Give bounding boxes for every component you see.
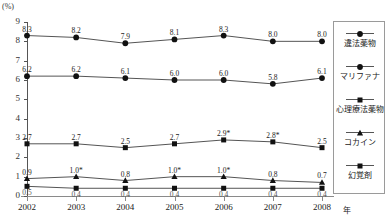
data-point-label: 0.8 (112, 171, 138, 179)
data-point-label: 6.1 (309, 68, 335, 76)
data-point-label: 6.1 (112, 68, 138, 76)
data-point-label: 2.5 (112, 138, 138, 146)
data-point-label: 2.7 (14, 134, 40, 142)
data-point-label: 2.5 (309, 138, 335, 146)
data-point-label: 0.4 (309, 191, 335, 199)
data-point-label: 1.0* (211, 167, 237, 175)
data-point (172, 37, 178, 43)
data-point-label: 0.4 (260, 191, 286, 199)
data-point-label: 8.1 (162, 29, 188, 37)
data-point (122, 75, 128, 81)
data-point (123, 145, 128, 150)
data-point (319, 75, 325, 81)
data-point (122, 40, 128, 46)
data-point (320, 145, 325, 150)
chart-container: (%) 012345678920022003200420052006200720… (0, 0, 387, 217)
data-point-label: 6.0 (211, 70, 237, 78)
data-point (221, 137, 226, 142)
data-point (270, 38, 276, 44)
legend-label: 幻覚剤 (334, 171, 386, 181)
legend-item-2[interactable]: マリファナ (334, 62, 386, 82)
data-point-label: 2.7 (63, 134, 89, 142)
data-point-label: 8.0 (309, 31, 335, 39)
data-point-label: 8.2 (63, 27, 89, 35)
data-point-label: 8.0 (260, 31, 286, 39)
legend-label: 違法薬物 (334, 39, 386, 49)
data-point-label: 0.8 (260, 171, 286, 179)
legend-marker-circle-icon (334, 29, 386, 39)
legend-marker-square-icon (334, 95, 386, 105)
data-point-label: 8.3 (211, 26, 237, 34)
data-point-label: 0.4 (211, 191, 237, 199)
legend-label: 心理療法薬物 (334, 105, 386, 115)
data-point-label: 0.4 (112, 191, 138, 199)
data-point-label: 6.2 (14, 66, 40, 74)
data-point-label: 0.5 (14, 189, 40, 197)
data-point-label: 6.2 (63, 66, 89, 74)
legend-marker-circle-icon (334, 62, 386, 72)
legend-item-4[interactable]: コカイン (334, 128, 386, 148)
data-point-label: 7.9 (112, 33, 138, 41)
data-point-label: 0.7 (309, 172, 335, 180)
legend-marker-square-icon (334, 161, 386, 171)
data-point (74, 141, 79, 146)
data-point-label: 0.4 (162, 191, 188, 199)
legend-label: コカイン (334, 138, 386, 148)
data-point (172, 141, 177, 146)
data-point-label: 2.7 (162, 134, 188, 142)
data-point (73, 73, 79, 79)
data-point (73, 35, 79, 41)
data-point-label: 2.8* (260, 132, 286, 140)
data-point (319, 38, 325, 44)
legend-item-3[interactable]: 心理療法薬物 (334, 95, 386, 115)
data-point-label: 5.8 (260, 74, 286, 82)
data-point-label: 6.0 (162, 70, 188, 78)
chart-legend: 違法薬物マリファナ心理療法薬物コカイン幻覚剤 (333, 21, 385, 194)
data-point-label: 1.0* (162, 167, 188, 175)
data-point-label: 0.4 (63, 191, 89, 199)
data-point (270, 139, 275, 144)
data-point-label: 2.9* (211, 130, 237, 138)
data-point (24, 73, 30, 79)
data-point (25, 141, 30, 146)
data-point-label: 1.0* (63, 167, 89, 175)
legend-item-1[interactable]: 違法薬物 (334, 29, 386, 49)
data-point-label: 0.9 (14, 169, 40, 177)
data-point-label: 8.3 (14, 26, 40, 34)
legend-label: マリファナ (334, 72, 386, 82)
legend-item-5[interactable]: 幻覚剤 (334, 161, 386, 181)
legend-marker-triangle-icon (334, 128, 386, 138)
